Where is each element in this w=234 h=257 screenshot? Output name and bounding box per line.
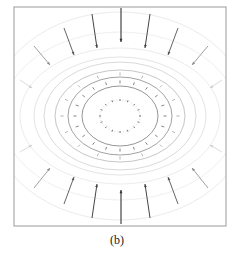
field-arrow-icon xyxy=(92,184,97,218)
small-arrow-icon xyxy=(172,99,175,100)
small-arrow-icon xyxy=(65,99,68,100)
contour-ellipse xyxy=(0,12,234,220)
small-arrow-icon xyxy=(97,76,98,79)
contour-ellipse xyxy=(82,86,158,146)
small-arrow-icon xyxy=(76,126,79,127)
small-arrow-icon xyxy=(160,145,162,147)
small-arrow-icon xyxy=(142,76,143,79)
arrowhead-icon xyxy=(120,190,123,193)
field-arrow-icon xyxy=(192,168,208,188)
small-arrow-icon xyxy=(93,142,95,144)
small-arrow-icon xyxy=(161,126,164,127)
field-arrow-icon xyxy=(145,14,150,48)
small-arrow-icon xyxy=(138,122,140,123)
arrowhead-icon xyxy=(72,177,75,180)
small-arrow-icon xyxy=(97,153,98,156)
small-arrow-icon xyxy=(127,100,128,102)
small-arrow-icon xyxy=(138,109,140,110)
field-arrow-icon xyxy=(168,177,178,204)
small-arrow-icon xyxy=(82,95,84,97)
arrowhead-icon xyxy=(120,39,123,42)
small-arrow-icon xyxy=(78,145,80,147)
small-arrow-icon xyxy=(112,130,113,132)
small-arrow-icon xyxy=(133,147,134,150)
small-arrow-icon xyxy=(133,82,134,85)
field-arrow-icon xyxy=(145,184,150,218)
small-arrow-icon xyxy=(93,87,95,89)
plot-area xyxy=(0,8,234,224)
contour-ellipse xyxy=(44,62,196,170)
figure-caption: (b) xyxy=(0,233,234,248)
small-arrow-icon xyxy=(127,130,128,132)
field-arrow-icon xyxy=(92,14,97,48)
small-arrow-icon xyxy=(78,85,80,87)
small-arrow-icon xyxy=(106,82,107,85)
arrowhead-icon xyxy=(168,177,171,180)
small-arrow-icon xyxy=(146,87,148,89)
small-arrow-icon xyxy=(142,153,143,156)
small-arrow-icon xyxy=(172,131,175,132)
small-arrow-icon xyxy=(133,104,134,105)
contour-ellipse xyxy=(20,48,220,184)
field-arrow-icon xyxy=(34,168,50,188)
arrowhead-icon xyxy=(72,52,75,55)
arrowhead-icon xyxy=(168,52,171,55)
small-arrow-icon xyxy=(82,135,84,137)
small-arrow-icon xyxy=(105,104,106,105)
field-arrow-icon xyxy=(192,46,208,65)
small-arrow-icon xyxy=(161,105,164,106)
small-arrow-icon xyxy=(155,95,157,97)
field-arrow-icon xyxy=(168,28,178,55)
small-arrow-icon xyxy=(101,109,103,110)
small-arrow-icon xyxy=(155,135,157,137)
field-arrow-icon xyxy=(34,46,50,65)
small-arrow-icon xyxy=(65,131,68,132)
small-arrow-icon xyxy=(76,105,79,106)
contour-ellipse xyxy=(68,77,172,155)
small-arrow-icon xyxy=(146,142,148,144)
vector-field-plot xyxy=(0,0,234,257)
small-arrow-icon xyxy=(106,147,107,150)
small-arrow-icon xyxy=(160,85,162,87)
small-arrow-icon xyxy=(112,100,113,102)
small-arrow-icon xyxy=(101,122,103,123)
